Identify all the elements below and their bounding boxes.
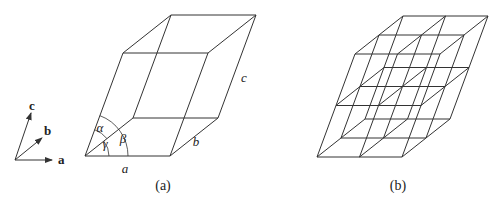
edge-label-c: c (241, 70, 247, 85)
panel-a-unit-cell (85, 15, 256, 156)
angle-label: α (97, 120, 105, 135)
unit-cell-figure: abc abcαγβ(a)(b) (0, 0, 500, 203)
basis-vector-a-label: a (58, 152, 65, 167)
edge-label-b: b (193, 134, 200, 149)
caption-b: (b) (390, 178, 407, 194)
basis-vector-c-label: c (29, 98, 35, 113)
caption-a: (a) (155, 178, 171, 194)
angle-label: γ (102, 136, 108, 151)
basis-vector-b-label: b (44, 123, 51, 138)
edge-label-a: a (122, 161, 129, 176)
panel-b-lattice (317, 16, 488, 157)
figure-labels: abcαγβ(a)(b) (97, 70, 407, 194)
angle-label: β (119, 131, 127, 146)
basis-vector-legend: abc (15, 98, 65, 167)
